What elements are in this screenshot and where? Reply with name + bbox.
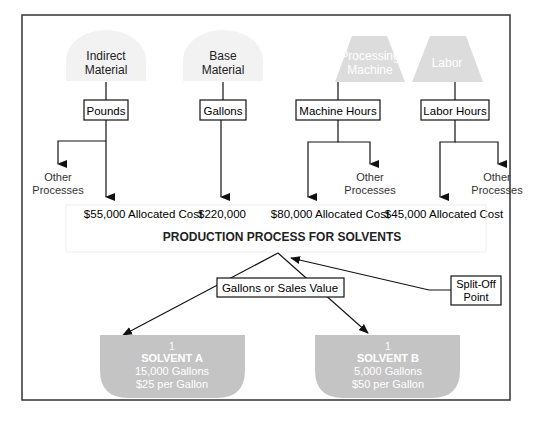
allocated-cost-machine: $80,000 Allocated Cost xyxy=(271,208,390,220)
other-processes-label-1b: Processes xyxy=(32,184,84,196)
other-processes-label-1a: Other xyxy=(44,171,72,183)
allocated-cost-base: $220,000 xyxy=(198,208,246,220)
solvent-b-name: SOLVENT B xyxy=(357,352,419,364)
cost-allocation-diagram: Indirect Material Base Material Processi… xyxy=(0,0,546,431)
split-off-label-1: Split-Off xyxy=(456,278,496,290)
solvent-a-name: SOLVENT A xyxy=(141,352,203,364)
other-processes-label-2b: Processes xyxy=(344,184,396,196)
processing-machine-label-1: Processing xyxy=(340,49,399,63)
solvent-a-count: 1 xyxy=(169,340,175,352)
other-processes-label-3b: Processes xyxy=(471,184,523,196)
driver-label-machine-hours: Machine Hours xyxy=(299,105,377,117)
solvent-b-price: $50 per Gallon xyxy=(352,378,424,390)
driver-label-pounds: Pounds xyxy=(86,105,125,117)
other-processes-label-3a: Other xyxy=(483,171,511,183)
solvent-a-volume: 15,000 Gallons xyxy=(135,365,209,377)
production-process-title: PRODUCTION PROCESS FOR SOLVENTS xyxy=(163,230,401,244)
solvent-a-price: $25 per Gallon xyxy=(136,378,208,390)
allocated-cost-indirect: $55,000 Allocated Cost xyxy=(84,208,203,220)
other-processes-label-2a: Other xyxy=(356,171,384,183)
driver-label-gallons: Gallons xyxy=(204,105,243,117)
labor-label: Labor xyxy=(432,56,463,70)
driver-label-labor-hours: Labor Hours xyxy=(423,105,487,117)
processing-machine-label-2: Machine xyxy=(347,63,393,77)
indirect-material-label-1: Indirect xyxy=(86,49,126,63)
base-material-label-2: Material xyxy=(202,63,245,77)
base-material-label-1: Base xyxy=(209,49,237,63)
solvent-b-volume: 5,000 Gallons xyxy=(354,365,422,377)
indirect-material-label-2: Material xyxy=(85,63,128,77)
solvent-b-count: 1 xyxy=(385,340,391,352)
allocation-basis-label: Gallons or Sales Value xyxy=(222,282,338,294)
split-off-label-2: Point xyxy=(463,291,488,303)
